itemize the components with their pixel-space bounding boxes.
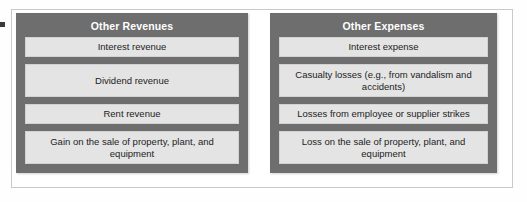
list-item-label: Losses from employee or supplier strikes (297, 108, 470, 120)
list-item: Losses from employee or supplier strikes (279, 104, 488, 124)
list-item: Interest revenue (25, 37, 239, 57)
list-item: Loss on the sale of property, plant, and… (279, 131, 488, 164)
list-item: Rent revenue (25, 104, 239, 124)
panel-items-other-expenses: Interest expense Casualty losses (e.g., … (279, 37, 488, 165)
list-item: Interest expense (279, 37, 488, 57)
list-item: Gain on the sale of property, plant, and… (25, 131, 239, 164)
list-item: Casualty losses (e.g., from vandalism an… (279, 64, 488, 97)
list-item-label: Loss on the sale of property, plant, and… (284, 136, 483, 160)
figure-root: Other Revenues Interest revenue Dividend… (0, 0, 527, 202)
scan-edge-mark (0, 22, 5, 27)
panel-items-other-revenues: Interest revenue Dividend revenue Rent r… (25, 37, 239, 165)
list-item-label: Interest expense (348, 41, 418, 53)
panel-title-other-expenses: Other Expenses (279, 19, 488, 34)
panel-other-revenues: Other Revenues Interest revenue Dividend… (16, 13, 248, 173)
list-item-label: Gain on the sale of property, plant, and… (30, 136, 234, 160)
list-item-label: Dividend revenue (95, 75, 169, 87)
list-item-label: Interest revenue (98, 41, 167, 53)
panel-other-expenses: Other Expenses Interest expense Casualty… (270, 13, 497, 173)
list-item-label: Rent revenue (103, 108, 160, 120)
list-item: Dividend revenue (25, 64, 239, 97)
panels-container: Other Revenues Interest revenue Dividend… (16, 13, 513, 173)
panel-title-other-revenues: Other Revenues (25, 19, 239, 34)
list-item-label: Casualty losses (e.g., from vandalism an… (284, 69, 483, 93)
